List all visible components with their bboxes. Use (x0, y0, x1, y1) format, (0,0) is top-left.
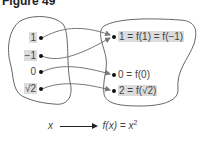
caption-x: x (48, 120, 53, 131)
right-arrow-icon (60, 126, 96, 127)
domain-label-1: 1 (29, 32, 37, 43)
range-dot (112, 89, 116, 93)
range-label-2: 2 = f(√2) (118, 85, 157, 96)
domain-label-0: 0 (30, 66, 36, 77)
arrow-neg1-to-1 (42, 38, 110, 59)
domain-label-sqrt2: √2 (24, 83, 37, 94)
caption-exponent: 2 (133, 119, 137, 126)
range-dot (112, 35, 116, 39)
domain-dot (39, 70, 43, 74)
domain-dot (39, 87, 43, 91)
domain-dot (39, 36, 43, 40)
range-label-1: 1 = f(1) = f(−1) (118, 31, 184, 42)
arrow-0-to-0 (42, 67, 110, 74)
domain-dot (39, 54, 43, 58)
caption-fx: f(x) = x (103, 120, 134, 131)
range-dot (112, 73, 116, 77)
arrow-1-to-1 (42, 28, 110, 38)
function-caption: x f(x) = x2 (48, 119, 137, 131)
arrow-sqrt2-to-2 (42, 84, 110, 90)
range-label-0: 0 = f(0) (118, 69, 150, 80)
domain-label-neg1: −1 (24, 50, 37, 61)
